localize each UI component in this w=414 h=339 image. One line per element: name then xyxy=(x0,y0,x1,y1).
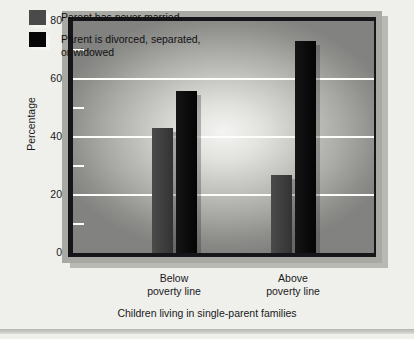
bar-chart-figure: Parent has never married Parent is divor… xyxy=(0,0,414,339)
legend-label-never-married: Parent has never married xyxy=(61,10,179,24)
bar-divorced-below xyxy=(176,91,197,253)
y-tick-60: 60 xyxy=(26,72,62,84)
legend-label-divorced: Parent is divorced, separated, or widowe… xyxy=(61,32,201,58)
bottom-divider xyxy=(0,329,414,334)
bar-never-married-below xyxy=(152,128,173,253)
minor-tick-20 xyxy=(73,194,84,196)
minor-tick-40 xyxy=(73,136,84,138)
legend-item-divorced: Parent is divorced, separated, or widowe… xyxy=(29,32,269,58)
y-tick-80: 80 xyxy=(26,14,62,26)
x-tick-label-above-poverty: Above poverty line xyxy=(243,272,343,298)
chart-legend: Parent has never married Parent is divor… xyxy=(29,10,269,63)
bar-divorced-above xyxy=(295,41,316,253)
x-tick-label-below-poverty: Below poverty line xyxy=(124,272,224,298)
y-tick-0: 0 xyxy=(26,246,62,258)
minor-tick-10 xyxy=(73,223,84,225)
minor-tick-50 xyxy=(73,107,84,109)
y-axis-tick-labels: 020406080 xyxy=(18,0,62,339)
minor-tick-60 xyxy=(73,78,84,80)
y-tick-20: 20 xyxy=(26,188,62,200)
bar-never-married-above xyxy=(271,175,292,253)
x-axis-title: Children living in single-parent familie… xyxy=(0,307,414,319)
y-tick-40: 40 xyxy=(26,130,62,142)
legend-item-never-married: Parent has never married xyxy=(29,10,269,27)
minor-tick-30 xyxy=(73,165,84,167)
gridline-40 xyxy=(73,136,374,138)
gridline-20 xyxy=(73,194,374,196)
gridline-60 xyxy=(73,78,374,80)
